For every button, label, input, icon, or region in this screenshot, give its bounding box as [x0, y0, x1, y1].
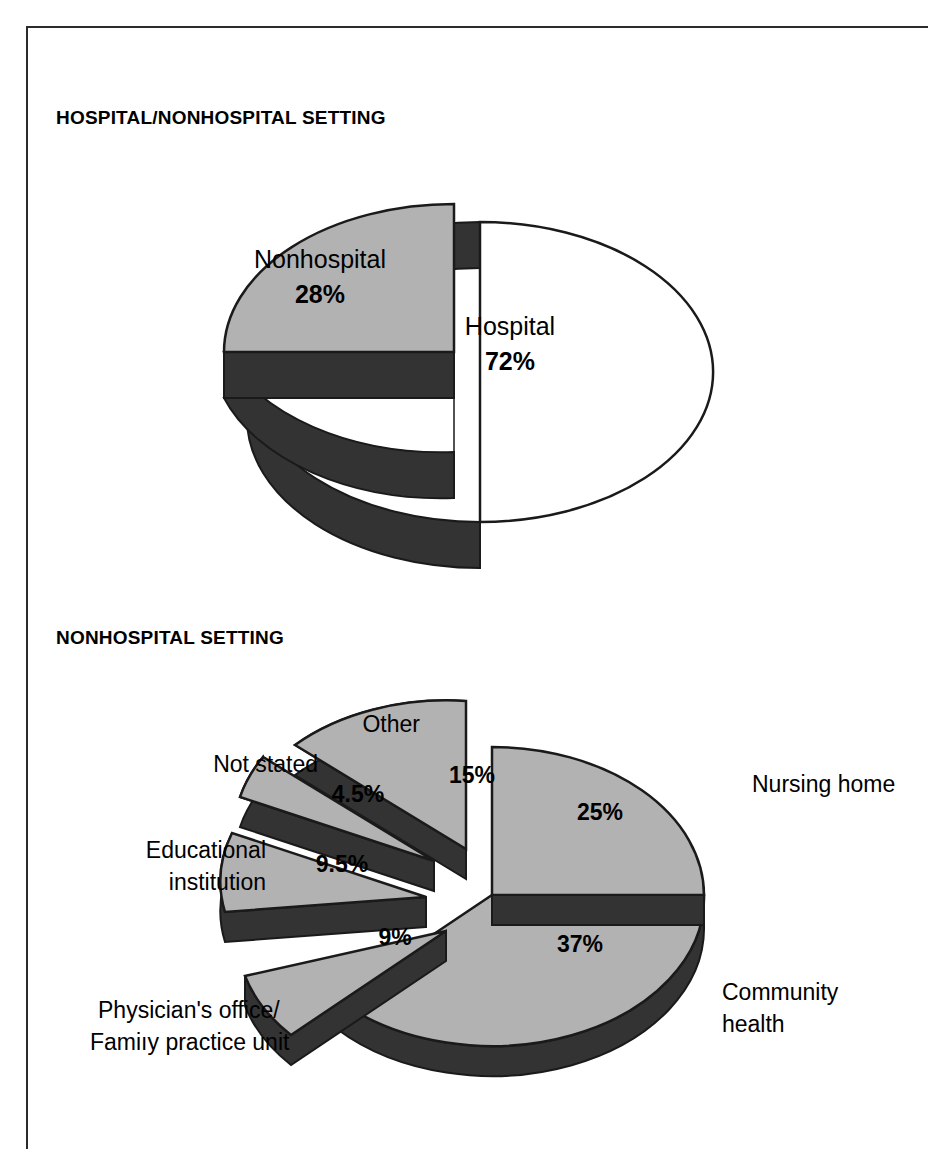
pie-chart-hospital-nonhospital: Hospital 72% Nonhospital 28%	[150, 170, 850, 570]
label-other: Other	[362, 711, 420, 737]
value-educational-institution: 9.5%	[316, 851, 368, 877]
label-community-health-line1: Community	[722, 979, 839, 1005]
page-frame-top-rule	[26, 26, 928, 28]
label-not-stated: Not stated	[213, 751, 318, 777]
label-community-health-line2: health	[722, 1011, 785, 1037]
value-physicians-office: 9%	[378, 924, 411, 950]
panel-title-nonhospital-setting: NONHOSPITAL SETTING	[56, 627, 284, 649]
label-nursing-home: Nursing home	[752, 771, 895, 797]
label-hospital: Hospital	[465, 312, 555, 340]
label-physicians-office-line2: Famiıy practice unit	[90, 1029, 290, 1055]
value-nursing-home: 25%	[577, 799, 623, 825]
panel-title-hospital-nonhospital: HOSPITAL/NONHOSPITAL SETTING	[56, 107, 386, 129]
label-educational-institution-line1: Educational	[146, 837, 266, 863]
pie-chart-2-svg: 25% 37% 9% 9.5% 4.5% 15% Nursing home Co…	[40, 680, 920, 1080]
value-other: 15%	[449, 762, 495, 788]
value-nonhospital: 28%	[295, 280, 345, 308]
pie-chart-nonhospital-breakdown: 25% 37% 9% 9.5% 4.5% 15% Nursing home Co…	[40, 680, 920, 1080]
value-not-stated: 4.5%	[332, 781, 384, 807]
value-community-health: 37%	[557, 931, 603, 957]
value-hospital: 72%	[485, 347, 535, 375]
pie-chart-1-svg: Hospital 72% Nonhospital 28%	[150, 170, 850, 570]
label-physicians-office-line1: Physician's office/	[98, 997, 280, 1023]
page-frame-left-rule	[26, 26, 28, 1149]
label-nonhospital: Nonhospital	[254, 245, 386, 273]
slice-nursing-home	[492, 747, 704, 925]
page-root: HOSPITAL/NONHOSPITAL SETTING	[0, 0, 928, 1149]
label-educational-institution-line2: institution	[169, 869, 266, 895]
